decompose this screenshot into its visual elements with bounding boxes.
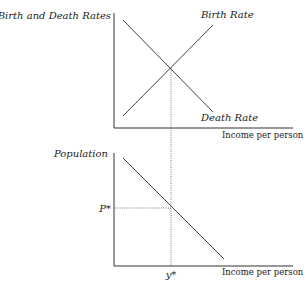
malthusian-diagram: Birth and Death Rates Income per person … [0,0,307,286]
y-star-label: y* [165,269,177,280]
population-line [123,158,224,259]
death-rate-line [123,20,213,112]
top-x-axis-label: Income per person [222,130,304,140]
bottom-x-axis-label: Income per person [222,267,304,277]
death-rate-label: Death Rate [200,112,258,123]
p-star-label: P* [98,203,111,214]
birth-rate-line [123,25,213,116]
birth-rate-label: Birth Rate [200,9,254,20]
top-panel: Birth and Death Rates Income per person … [0,9,304,140]
top-y-axis-label: Birth and Death Rates [0,10,111,21]
bottom-y-axis-label: Population [53,148,108,159]
bottom-panel: Population Income per person P* y* [53,148,304,280]
